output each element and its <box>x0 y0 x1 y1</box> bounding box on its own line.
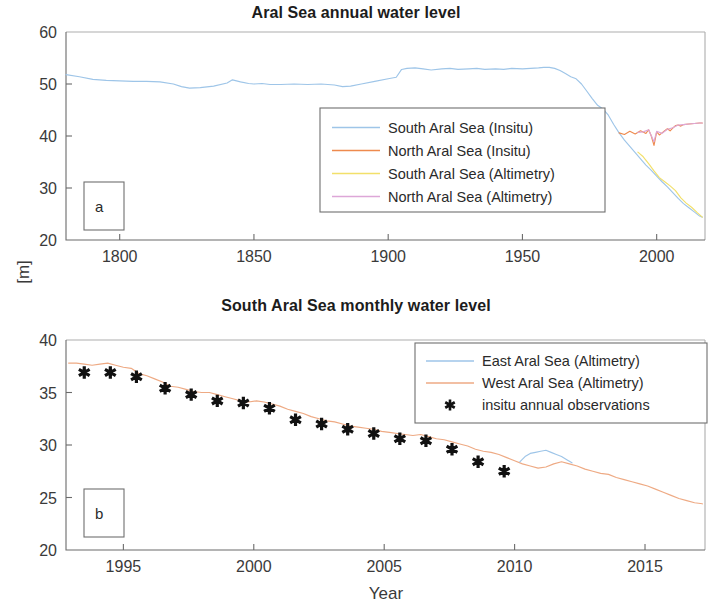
panel-tag-label: b <box>95 505 103 522</box>
y-tick-label: 30 <box>39 437 57 454</box>
y-tick-label: 60 <box>39 24 57 41</box>
x-tick-label: 1800 <box>102 248 138 265</box>
series-line <box>619 123 702 145</box>
legend-item-label: South Aral Sea (Insitu) <box>388 120 533 136</box>
x-axis-title: Year <box>369 584 404 603</box>
panel-a-annual-water-level: Aral Sea annual water level 203040506018… <box>0 0 712 300</box>
y-tick-label: 40 <box>39 128 57 145</box>
legend-item-label: West Aral Sea (Altimetry) <box>482 375 644 391</box>
panel-b-plot: 202530354019952000200520102015East Aral … <box>0 295 712 611</box>
legend-item-label: insitu annual observations <box>482 397 650 413</box>
panel-tag-label: a <box>95 198 104 215</box>
y-tick-label: 50 <box>39 76 57 93</box>
panel-tag-box <box>84 489 124 537</box>
y-tick-label: 25 <box>39 490 57 507</box>
y-tick-label: 35 <box>39 385 57 402</box>
x-tick-label: 1995 <box>106 558 142 575</box>
x-tick-label: 1950 <box>505 248 541 265</box>
y-tick-label: 40 <box>39 332 57 349</box>
y-axis-label: [m] <box>0 252 54 292</box>
legend-item-label: East Aral Sea (Altimetry) <box>482 353 640 369</box>
legend-item-label: North Aral Sea (Insitu) <box>388 143 531 159</box>
series-line <box>520 450 572 463</box>
series-line <box>638 152 702 217</box>
legend-item-label: South Aral Sea (Altimetry) <box>388 166 555 182</box>
series-line <box>638 123 702 142</box>
x-tick-label: 2000 <box>236 558 272 575</box>
x-tick-label: 2005 <box>366 558 402 575</box>
x-tick-label: 1850 <box>236 248 272 265</box>
panel-tag-box <box>84 182 124 230</box>
panel-b-monthly-water-level: South Aral Sea monthly water level 20253… <box>0 295 712 611</box>
x-tick-label: 1900 <box>370 248 406 265</box>
y-tick-label: 30 <box>39 180 57 197</box>
x-tick-label: 2015 <box>627 558 663 575</box>
x-tick-label: 2010 <box>497 558 533 575</box>
panel-a-plot: 203040506018001850190019502000South Aral… <box>0 0 712 300</box>
y-tick-label: 20 <box>39 542 57 559</box>
y-axis-label-text: [m] <box>4 242 44 302</box>
legend-item-label: North Aral Sea (Altimetry) <box>388 189 552 205</box>
x-tick-label: 2000 <box>639 248 675 265</box>
